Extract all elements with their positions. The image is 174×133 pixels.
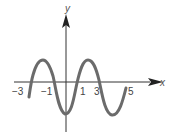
y-axis-label: y: [64, 3, 71, 14]
x-axis-label: x: [159, 77, 166, 88]
tick-label-minus-1: −1: [41, 86, 53, 97]
tick-label-3: 3: [94, 86, 100, 97]
tick-label-5: 5: [128, 86, 134, 97]
tick-label-minus-3: −3: [12, 86, 24, 97]
tick-label-1: 1: [80, 86, 86, 97]
chart: −3 −1 1 3 5 x y: [0, 0, 174, 133]
